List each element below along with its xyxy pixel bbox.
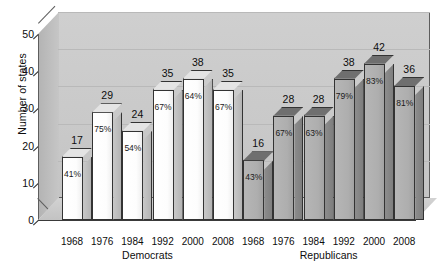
bar-value-label: 42	[359, 41, 399, 53]
bar-value-label: 24	[117, 108, 157, 120]
bar-value-label: 16	[238, 137, 278, 149]
bar-front-face	[364, 64, 385, 220]
y-tick-label: 30	[14, 102, 34, 114]
bar-republicans-1976: 2867%	[273, 12, 294, 220]
bar-side-face	[264, 160, 273, 220]
bar-democrats-1992: 3567%	[153, 12, 174, 220]
bar-percent-label: 64%	[185, 91, 211, 101]
bar-front-face	[62, 157, 83, 220]
bar-percent-label: 81%	[396, 98, 422, 108]
bar-democrats-1976: 2975%	[92, 12, 113, 220]
bar-democrats-2008: 3567%	[213, 12, 234, 220]
bar-percent-label: 83%	[366, 76, 392, 86]
bar-percent-label: 67%	[275, 128, 301, 138]
y-tick-label: 40	[14, 65, 34, 77]
bar-front-face	[243, 160, 264, 220]
bar-side-face	[83, 157, 92, 220]
left-wall-vertical-edge	[38, 34, 39, 220]
bar-republicans-2008: 3681%	[394, 12, 415, 220]
bar-republicans-1968: 1643%	[243, 12, 264, 220]
bar-percent-label: 67%	[215, 102, 241, 112]
chart-left-wall	[38, 12, 59, 220]
group-label-republicans: Republicans	[269, 249, 389, 261]
bar-republicans-1992: 3879%	[334, 12, 355, 220]
bar-percent-label: 67%	[155, 102, 181, 112]
y-tick-label: 0	[14, 214, 34, 226]
bar-value-label: 36	[389, 63, 429, 75]
bar-value-label: 38	[329, 56, 369, 68]
bar-side-face	[385, 64, 394, 220]
y-tick-label: 20	[14, 140, 34, 152]
x-tick-label: 2008	[384, 236, 424, 247]
bar-democrats-1984: 2454%	[122, 12, 143, 220]
bar-democrats-1968: 1741%	[62, 12, 83, 220]
bar-value-label: 28	[299, 93, 339, 105]
group-label-democrats: Democrats	[88, 249, 208, 261]
plot-area: 1741%2975%2454%3567%3864%3567%1643%2867%…	[38, 12, 437, 234]
chart-floor-front-edge	[38, 220, 416, 221]
y-tick-label: 10	[14, 177, 34, 189]
bar-value-label: 35	[148, 67, 188, 79]
y-tick-label: 50	[14, 28, 34, 40]
bar-percent-label: 79%	[336, 91, 362, 101]
bar-value-label: 35	[208, 67, 248, 79]
bar-chart: Number of states 01020304050 1741%2975%2…	[0, 0, 437, 262]
bar-democrats-2000: 3864%	[183, 12, 204, 220]
bar-percent-label: 43%	[245, 172, 271, 182]
bar-value-label: 17	[57, 134, 97, 146]
bar-percent-label: 54%	[124, 143, 150, 153]
bar-percent-label: 75%	[94, 124, 120, 134]
bar-percent-label: 41%	[64, 169, 90, 179]
bar-republicans-2000: 4283%	[364, 12, 385, 220]
bar-percent-label: 63%	[306, 128, 332, 138]
bar-value-label: 29	[87, 89, 127, 101]
bar-republicans-1984: 2863%	[304, 12, 325, 220]
